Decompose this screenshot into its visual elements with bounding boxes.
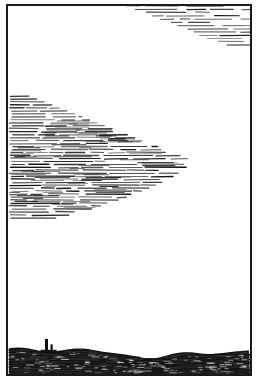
- landscape-scene: [0, 0, 259, 380]
- paper-background: [0, 0, 259, 380]
- engraving-canvas: A white sky with horizontally hatched cl…: [0, 0, 259, 380]
